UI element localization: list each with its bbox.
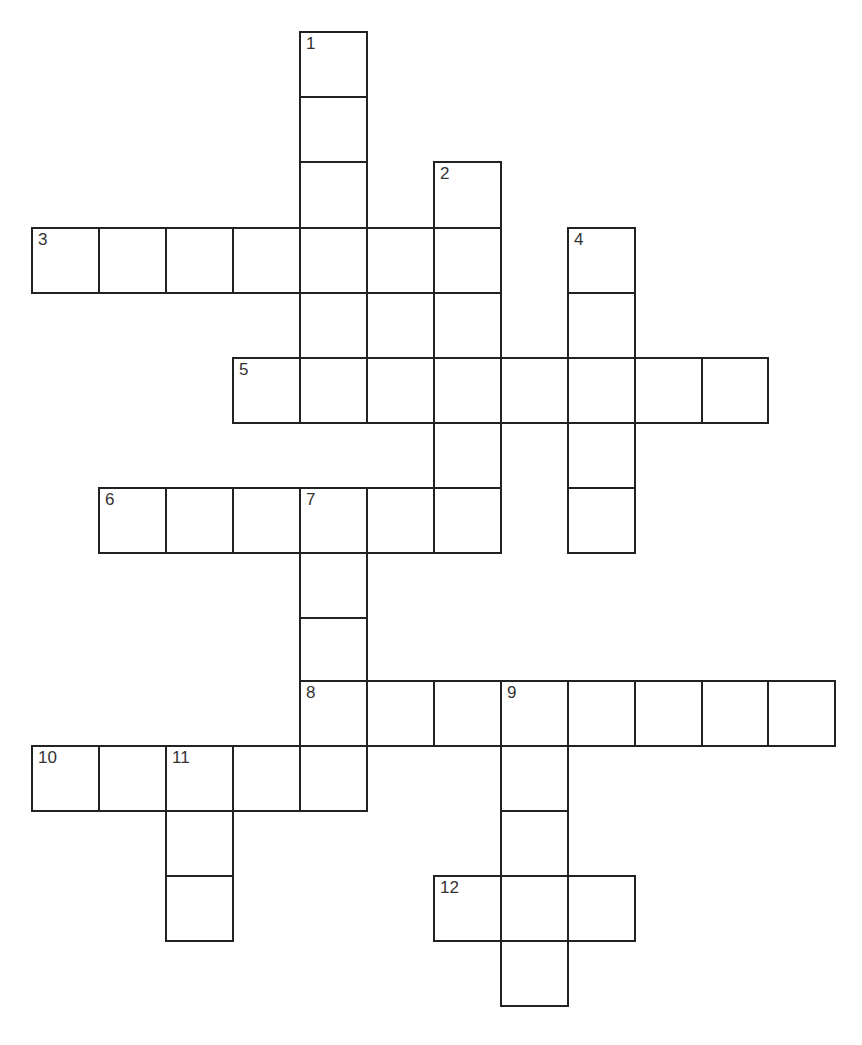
- letter-input[interactable]: [100, 747, 165, 810]
- crossword-cell[interactable]: [500, 810, 569, 877]
- crossword-cell[interactable]: [567, 292, 636, 359]
- crossword-cell[interactable]: [500, 875, 569, 942]
- crossword-cell[interactable]: [299, 357, 368, 424]
- crossword-cell[interactable]: 2: [433, 161, 502, 229]
- crossword-cell[interactable]: [232, 487, 301, 554]
- crossword-cell[interactable]: [433, 680, 502, 747]
- letter-input[interactable]: [435, 229, 500, 292]
- crossword-cell[interactable]: [232, 745, 301, 812]
- letter-input[interactable]: [569, 359, 634, 422]
- crossword-cell[interactable]: [299, 552, 368, 619]
- letter-input[interactable]: [301, 163, 366, 227]
- crossword-cell[interactable]: [433, 487, 502, 554]
- crossword-cell[interactable]: [165, 487, 234, 554]
- crossword-cell[interactable]: 10: [31, 745, 100, 812]
- letter-input[interactable]: [502, 812, 567, 875]
- letter-input[interactable]: [368, 229, 433, 292]
- letter-input[interactable]: [301, 98, 366, 161]
- letter-input[interactable]: [167, 747, 232, 810]
- crossword-cell[interactable]: 1: [299, 31, 368, 98]
- crossword-cell[interactable]: [433, 227, 502, 294]
- letter-input[interactable]: [435, 294, 500, 357]
- letter-input[interactable]: [368, 489, 433, 552]
- crossword-cell[interactable]: [299, 745, 368, 812]
- crossword-cell[interactable]: [767, 680, 836, 747]
- crossword-cell[interactable]: [98, 745, 167, 812]
- crossword-cell[interactable]: [299, 617, 368, 682]
- letter-input[interactable]: [301, 747, 366, 810]
- crossword-cell[interactable]: [366, 487, 435, 554]
- crossword-cell[interactable]: [165, 227, 234, 294]
- crossword-cell[interactable]: [701, 357, 769, 424]
- letter-input[interactable]: [301, 229, 366, 292]
- letter-input[interactable]: [569, 424, 634, 487]
- crossword-cell[interactable]: [299, 161, 368, 229]
- crossword-cell[interactable]: [701, 680, 769, 747]
- letter-input[interactable]: [301, 489, 366, 552]
- letter-input[interactable]: [167, 229, 232, 292]
- crossword-cell[interactable]: 8: [299, 680, 368, 747]
- letter-input[interactable]: [636, 682, 701, 745]
- letter-input[interactable]: [301, 33, 366, 96]
- letter-input[interactable]: [301, 682, 366, 745]
- crossword-cell[interactable]: [567, 357, 636, 424]
- crossword-cell[interactable]: [567, 680, 636, 747]
- crossword-cell[interactable]: [366, 227, 435, 294]
- letter-input[interactable]: [502, 747, 567, 810]
- crossword-cell[interactable]: 11: [165, 745, 234, 812]
- crossword-cell[interactable]: [500, 940, 569, 1007]
- letter-input[interactable]: [636, 359, 701, 422]
- crossword-cell[interactable]: [299, 292, 368, 359]
- letter-input[interactable]: [167, 489, 232, 552]
- letter-input[interactable]: [301, 359, 366, 422]
- crossword-cell[interactable]: [567, 422, 636, 489]
- letter-input[interactable]: [33, 747, 98, 810]
- letter-input[interactable]: [769, 682, 834, 745]
- crossword-cell[interactable]: 5: [232, 357, 301, 424]
- crossword-cell[interactable]: [366, 357, 435, 424]
- letter-input[interactable]: [435, 424, 500, 487]
- letter-input[interactable]: [368, 294, 433, 357]
- crossword-cell[interactable]: 7: [299, 487, 368, 554]
- crossword-cell[interactable]: [165, 810, 234, 877]
- crossword-cell[interactable]: [433, 422, 502, 489]
- crossword-cell[interactable]: [366, 680, 435, 747]
- crossword-cell[interactable]: 6: [98, 487, 167, 554]
- crossword-cell[interactable]: [500, 745, 569, 812]
- letter-input[interactable]: [368, 359, 433, 422]
- crossword-cell[interactable]: 9: [500, 680, 569, 747]
- letter-input[interactable]: [435, 682, 500, 745]
- letter-input[interactable]: [435, 163, 500, 227]
- letter-input[interactable]: [502, 877, 567, 940]
- letter-input[interactable]: [502, 942, 567, 1005]
- letter-input[interactable]: [502, 682, 567, 745]
- crossword-cell[interactable]: [165, 875, 234, 942]
- crossword-cell[interactable]: [433, 357, 502, 424]
- crossword-cell[interactable]: [299, 96, 368, 163]
- crossword-cell[interactable]: [232, 227, 301, 294]
- crossword-cell[interactable]: [98, 227, 167, 294]
- crossword-cell[interactable]: 3: [31, 227, 100, 294]
- letter-input[interactable]: [435, 489, 500, 552]
- letter-input[interactable]: [301, 554, 366, 617]
- letter-input[interactable]: [435, 877, 500, 940]
- crossword-cell[interactable]: 12: [433, 875, 502, 942]
- letter-input[interactable]: [301, 619, 366, 680]
- crossword-cell[interactable]: [567, 487, 636, 554]
- letter-input[interactable]: [569, 489, 634, 552]
- letter-input[interactable]: [234, 489, 299, 552]
- crossword-cell[interactable]: [634, 357, 703, 424]
- letter-input[interactable]: [167, 812, 232, 875]
- crossword-cell[interactable]: [433, 292, 502, 359]
- crossword-cell[interactable]: [634, 680, 703, 747]
- letter-input[interactable]: [100, 489, 165, 552]
- letter-input[interactable]: [234, 359, 299, 422]
- crossword-cell[interactable]: [299, 227, 368, 294]
- letter-input[interactable]: [435, 359, 500, 422]
- letter-input[interactable]: [100, 229, 165, 292]
- letter-input[interactable]: [569, 877, 634, 940]
- crossword-cell[interactable]: [366, 292, 435, 359]
- letter-input[interactable]: [502, 359, 567, 422]
- letter-input[interactable]: [569, 682, 634, 745]
- crossword-cell[interactable]: [567, 875, 636, 942]
